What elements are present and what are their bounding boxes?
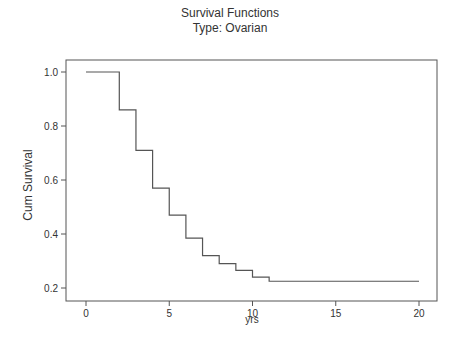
y-tick-label: 0.2 xyxy=(44,283,58,294)
survival-plot: 0.20.40.60.81.0 05101520 xyxy=(0,0,460,351)
y-axis: 0.20.40.60.81.0 xyxy=(44,67,66,294)
x-axis: 05101520 xyxy=(83,301,425,319)
y-tick-label: 0.4 xyxy=(44,229,58,240)
x-tick-label: 15 xyxy=(330,308,342,319)
survival-curve xyxy=(86,72,419,281)
survival-step-line xyxy=(86,72,419,281)
y-tick-label: 0.6 xyxy=(44,175,58,186)
y-tick-label: 0.8 xyxy=(44,121,58,132)
plot-border xyxy=(66,60,437,301)
y-tick-label: 1.0 xyxy=(44,67,58,78)
x-tick-label: 5 xyxy=(166,308,172,319)
plot-frame xyxy=(66,60,437,301)
x-tick-label: 0 xyxy=(83,308,89,319)
x-tick-label: 10 xyxy=(247,308,259,319)
x-tick-label: 20 xyxy=(413,308,425,319)
